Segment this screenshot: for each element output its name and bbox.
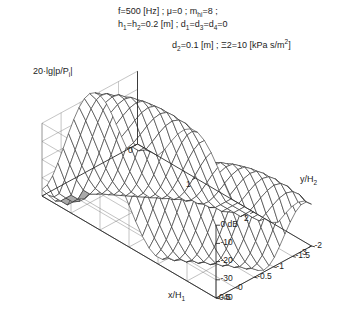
y-tick-0: 0 xyxy=(238,282,243,292)
z-axis-title-end: | xyxy=(70,66,72,76)
param-xi-end: ] xyxy=(288,40,291,50)
y-axis-title-main: y/H xyxy=(300,174,314,184)
param-d2-val: =0.1 [m] xyxy=(181,40,214,50)
param-d4-val: =0 xyxy=(217,19,227,29)
x-axis-title-main: x/H xyxy=(168,290,182,300)
sep-2: ; xyxy=(185,6,188,16)
caption-line-2: h1=h2=0.2 [m] ; d1=d3=d4=0 xyxy=(118,19,228,33)
x-axis-title-sub: 1 xyxy=(182,295,186,302)
figure-root: f=500 [Hz] ; μ=0 ; mhi=8 ; h1=h2=0.2 [m]… xyxy=(0,0,338,325)
surface-mesh xyxy=(42,93,312,271)
caption-line-3: d2=0.1 [m] ; Ξ2=10 [kPa s/m2] xyxy=(172,36,291,54)
x-tick-0: 0 xyxy=(128,145,133,155)
caption-line-1: f=500 [Hz] ; μ=0 ; mhi=8 ; xyxy=(118,6,218,20)
z-axis-title-main: 20·lg|p/P xyxy=(33,66,69,76)
y-tick--1p5: -1.5 xyxy=(295,250,310,260)
y-axis-title-sub: 2 xyxy=(314,179,318,186)
sep-4: ; xyxy=(176,19,179,29)
param-d1-eq: =d xyxy=(189,19,199,29)
param-h-val: =0.2 [m] xyxy=(141,19,174,29)
y-tick--2: -2 xyxy=(315,240,323,250)
param-d3-eq: =d xyxy=(203,19,213,29)
param-h-eq: =h xyxy=(127,19,137,29)
z-tick-3: -30 xyxy=(221,273,233,283)
z-tick-0: 0 dB xyxy=(221,219,239,229)
sep-1: ; xyxy=(162,6,165,16)
z-tick-2: -20 xyxy=(221,255,233,265)
param-xi: Ξ2=10 [kPa s/m xyxy=(221,40,285,50)
y-tick--1: -1 xyxy=(276,261,284,271)
y-tick--0p5: -0.5 xyxy=(257,271,272,281)
z-tick-1: -10 xyxy=(221,237,233,247)
z-axis-title: 20·lg|p/Pi| xyxy=(33,66,73,78)
param-frequency: f=500 [Hz] xyxy=(118,6,159,16)
param-mhi-val: =8 xyxy=(202,6,212,16)
x-tick-1: 1 xyxy=(186,179,191,189)
z-tick-4: -40 xyxy=(221,292,233,302)
x-tick-2: 2 xyxy=(244,213,249,223)
param-mu: μ=0 xyxy=(167,6,182,16)
y-axis-title: y/H2 xyxy=(300,174,317,186)
sep-3: ; xyxy=(215,6,218,16)
sep-5: ; xyxy=(216,40,219,50)
x-axis-title: x/H1 xyxy=(168,290,185,302)
